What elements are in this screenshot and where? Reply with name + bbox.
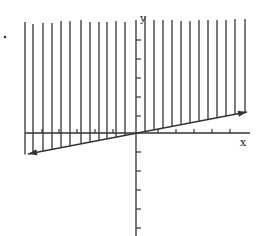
y-axis-label: y bbox=[140, 13, 146, 24]
dot-icon bbox=[4, 36, 7, 39]
dot-marker bbox=[4, 36, 7, 39]
x-axis-label: x bbox=[240, 137, 246, 148]
vector-field-diagram bbox=[0, 0, 257, 236]
axes bbox=[25, 20, 250, 236]
